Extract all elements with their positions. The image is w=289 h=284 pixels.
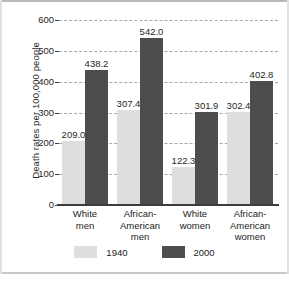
- y-tick-label: 600: [24, 15, 54, 25]
- dark-gray-swatch-icon: [162, 246, 185, 258]
- bar-chart-figure: Death rates per 100,000 people 010020030…: [0, 0, 289, 284]
- y-tick-label: 300: [24, 108, 54, 118]
- figure-border-bottom: [0, 272, 289, 274]
- bar-1940-white-women: [172, 167, 195, 205]
- x-axis-line: [57, 204, 279, 206]
- bar-2000-white-women: [195, 112, 218, 205]
- bar-2000-african-american-men: [140, 38, 163, 205]
- legend-label-2000: 2000: [194, 247, 215, 258]
- category-label-line: American: [217, 220, 283, 232]
- category-label-line: men: [107, 231, 173, 243]
- chart-legend: 1940 2000: [0, 246, 289, 258]
- legend-item-1940: 1940: [74, 246, 127, 258]
- legend-item-2000: 2000: [162, 246, 215, 258]
- y-tick-label: 400: [24, 77, 54, 87]
- bar-2000-white-men: [85, 70, 108, 205]
- category-label-line: women: [217, 231, 283, 243]
- light-gray-swatch-icon: [74, 246, 97, 258]
- bar-value-label: 402.8: [244, 69, 279, 80]
- bar-value-label: 542.0: [134, 26, 169, 37]
- y-tick-label: 500: [24, 46, 54, 56]
- gridline: [59, 20, 278, 21]
- bar-1940-african-american-women: [227, 112, 250, 205]
- bar-value-label: 301.9: [189, 100, 224, 111]
- y-tick-label: 200: [24, 138, 54, 148]
- bar-1940-african-american-men: [117, 110, 140, 205]
- figure-border-right: [287, 0, 289, 274]
- figure-border-top: [0, 0, 289, 2]
- legend-label-1940: 1940: [106, 247, 127, 258]
- y-tick-label: 100: [24, 169, 54, 179]
- figure-border-left: [0, 0, 2, 274]
- category-label-line: African-: [217, 208, 283, 220]
- category-label: African-Americanwomen: [217, 208, 283, 243]
- bar-value-label: 438.2: [79, 58, 114, 69]
- bar-2000-african-american-women: [250, 81, 273, 205]
- plot-area: 209.0438.2307.4542.0122.3301.9302.4402.8: [59, 20, 278, 205]
- y-tick-label: 0: [24, 200, 54, 210]
- gridline: [59, 51, 278, 52]
- bar-1940-white-men: [62, 141, 85, 205]
